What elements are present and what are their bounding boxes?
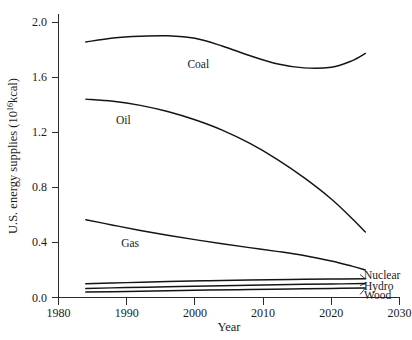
- y-tick-label-0.4: 0.4: [32, 235, 47, 249]
- x-tick-label-1980: 1980: [47, 306, 71, 320]
- x-tick-label-2030: 2030: [388, 306, 412, 320]
- y-axis-title-suffix: kcal): [6, 78, 20, 103]
- y-tick-label-0.0: 0.0: [32, 291, 47, 305]
- series-callout-labels: NuclearHydroWood: [360, 269, 401, 301]
- x-tick-label-1990: 1990: [115, 306, 139, 320]
- y-tick-label-2.0: 2.0: [32, 15, 47, 29]
- x-tick-label-2020: 2020: [319, 306, 343, 320]
- chart-figure: 0.00.40.81.21.62.0 198019902000201020202…: [0, 0, 412, 340]
- y-axis-title: U.S. energy supplies (1016kcal): [6, 78, 20, 234]
- y-axis-title-prefix: U.S. energy supplies (10: [6, 111, 20, 234]
- x-tick-label-2000: 2000: [183, 306, 207, 320]
- y-axis-title-exponent: 16: [6, 103, 15, 111]
- series-paths: [86, 36, 366, 292]
- line-chart-svg: 0.00.40.81.21.62.0 198019902000201020202…: [0, 0, 412, 340]
- series-label-gas: Gas: [121, 237, 139, 249]
- x-axis-ticks: 198019902000201020202030: [47, 298, 412, 321]
- y-axis-ticks: 0.00.40.81.21.62.0: [32, 15, 59, 305]
- y-tick-label-1.2: 1.2: [32, 125, 47, 139]
- series-line-hydro: [86, 284, 366, 289]
- series-label-wood: Wood: [364, 289, 391, 301]
- series-label-oil: Oil: [116, 114, 131, 126]
- series-inline-labels: CoalOilGas: [116, 58, 209, 249]
- series-line-wood: [86, 288, 366, 292]
- x-axis-title: Year: [217, 320, 241, 334]
- series-line-nuclear: [86, 279, 366, 284]
- x-tick-label-2010: 2010: [251, 306, 275, 320]
- series-line-coal: [86, 36, 366, 69]
- series-label-coal: Coal: [187, 58, 209, 70]
- y-tick-label-0.8: 0.8: [32, 180, 47, 194]
- y-tick-label-1.6: 1.6: [32, 70, 47, 84]
